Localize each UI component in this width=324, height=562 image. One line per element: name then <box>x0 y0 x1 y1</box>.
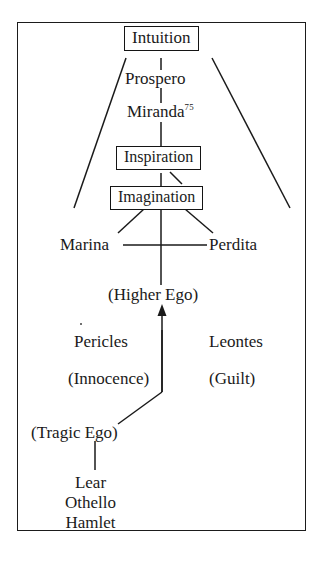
node-prospero[interactable]: Prospero <box>125 70 185 87</box>
node-tragedy-hamlet: Hamlet <box>65 513 116 533</box>
node-innocence[interactable]: (Innocence) <box>68 370 149 387</box>
node-higher-ego[interactable]: (Higher Ego) <box>108 286 198 303</box>
stray-ink-dot <box>80 323 82 325</box>
node-leontes-label: Leontes <box>209 332 263 351</box>
node-tragic-ego-label: (Tragic Ego) <box>31 423 118 442</box>
node-imagination-label: Imagination <box>118 188 195 205</box>
node-tragedy-othello: Othello <box>65 493 116 513</box>
node-intuition[interactable]: Intuition <box>124 26 199 51</box>
node-inspiration[interactable]: Inspiration <box>116 146 201 170</box>
node-imagination[interactable]: Imagination <box>110 186 203 210</box>
diagram-canvas: Intuition Prospero Miranda75 Inspiration… <box>0 0 324 562</box>
node-innocence-label: (Innocence) <box>68 369 149 388</box>
node-pericles[interactable]: Pericles <box>74 333 128 350</box>
node-intuition-label: Intuition <box>132 28 191 47</box>
node-tragedy-lear: Lear <box>65 473 116 493</box>
node-perdita-label: Perdita <box>209 235 257 254</box>
node-tragedies-list[interactable]: Lear Othello Hamlet <box>65 473 116 533</box>
node-inspiration-label: Inspiration <box>124 148 193 165</box>
diagram-frame-border <box>17 22 306 531</box>
node-miranda-label: Miranda <box>127 102 185 121</box>
node-leontes[interactable]: Leontes <box>209 333 263 350</box>
node-marina-label: Marina <box>60 235 109 254</box>
node-miranda-footnote: 75 <box>185 102 194 112</box>
node-pericles-label: Pericles <box>74 332 128 351</box>
node-higher-ego-label: (Higher Ego) <box>108 285 198 304</box>
node-prospero-label: Prospero <box>125 69 185 88</box>
node-miranda[interactable]: Miranda75 <box>127 103 194 120</box>
node-guilt[interactable]: (Guilt) <box>209 370 255 387</box>
node-guilt-label: (Guilt) <box>209 369 255 388</box>
node-tragic-ego[interactable]: (Tragic Ego) <box>31 424 118 441</box>
node-marina[interactable]: Marina <box>60 236 109 253</box>
node-perdita[interactable]: Perdita <box>209 236 257 253</box>
